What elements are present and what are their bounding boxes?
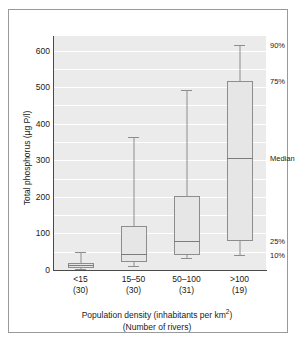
box-plot	[54, 10, 107, 244]
x-category-label: 15–50(30)	[107, 274, 160, 296]
y-tick-label: 600	[20, 46, 50, 55]
x-category-name: <15	[54, 274, 107, 285]
upper-whisker	[186, 90, 187, 196]
lower-whisker-cap	[234, 255, 246, 256]
percentile-label: Median	[270, 154, 295, 163]
box-plot	[107, 10, 160, 244]
upper-whisker-cap	[181, 90, 193, 91]
y-tick-label: 0	[20, 266, 50, 275]
upper-whisker	[133, 137, 134, 227]
upper-whisker	[80, 252, 81, 264]
y-axis-title: Total phosphorus (µg P/l)	[22, 78, 32, 238]
x-category-label: 50–100(31)	[160, 274, 213, 296]
median-line	[121, 254, 147, 255]
figure: 0100200300400500600 Total phosphorus (µg…	[0, 0, 296, 342]
x-category-name: >100	[213, 274, 266, 285]
figure-frame: 0100200300400500600 Total phosphorus (µg…	[8, 9, 288, 333]
x-category-count: (30)	[54, 285, 107, 296]
box-iqr	[121, 226, 147, 262]
percentile-label: 10%	[270, 250, 285, 259]
x-category-label: <15(30)	[54, 274, 107, 296]
x-category-name: 50–100	[160, 274, 213, 285]
box-plot	[160, 10, 213, 244]
upper-whisker-cap	[75, 252, 87, 253]
box-iqr	[227, 81, 253, 242]
x-category-count: (19)	[213, 285, 266, 296]
lower-whisker	[239, 241, 240, 254]
x-axis-title: Population density (inhabitants per km2)…	[29, 306, 285, 333]
x-category-count: (30)	[107, 285, 160, 296]
median-line	[227, 158, 253, 159]
upper-whisker	[239, 45, 240, 80]
median-line	[68, 265, 94, 266]
percentile-label: 75%	[270, 76, 285, 85]
box-plot	[213, 10, 266, 244]
lower-whisker-cap	[75, 269, 87, 270]
x-axis-title-line2: (Number of rivers)	[29, 321, 285, 333]
lower-whisker-cap	[181, 258, 193, 259]
percentile-label: 90%	[270, 41, 285, 50]
upper-whisker-cap	[234, 45, 246, 46]
x-category-name: 15–50	[107, 274, 160, 285]
lower-whisker-cap	[128, 266, 140, 267]
upper-whisker-cap	[128, 137, 140, 138]
x-axis-line	[53, 270, 267, 271]
median-line	[174, 241, 200, 242]
percentile-label: 25%	[270, 237, 285, 246]
box-iqr	[174, 196, 200, 255]
x-category-label: >100(19)	[213, 274, 266, 296]
x-category-count: (31)	[160, 285, 213, 296]
x-axis-title-line1: Population density (inhabitants per km2)	[29, 306, 285, 321]
